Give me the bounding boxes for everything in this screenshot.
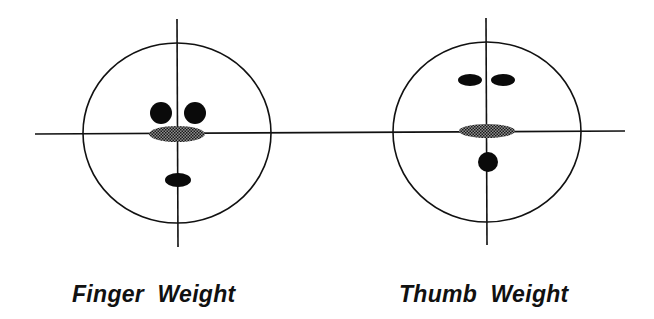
finger-weight-left-eye-dot: [150, 102, 172, 124]
finger-weight-right-eye-dot: [184, 102, 206, 124]
horizontal-axis-line: [35, 131, 625, 134]
finger-weight-caption: Finger Weight: [72, 281, 236, 308]
weight-diagram: [0, 0, 654, 319]
finger-weight-mouth-dot: [165, 173, 191, 187]
thumb-weight-chin-dot: [478, 152, 498, 172]
thumb-weight-left-eye-dot: [458, 74, 482, 86]
thumb-weight-right-eye-dot: [491, 74, 515, 86]
thumb-weight-caption: Thumb Weight: [399, 281, 569, 308]
finger-weight-center-mark: [149, 126, 205, 142]
thumb-weight-center-mark: [459, 124, 515, 138]
